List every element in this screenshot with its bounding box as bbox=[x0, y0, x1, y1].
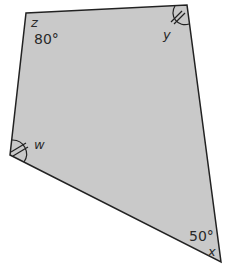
angle-value-z: 80° bbox=[34, 31, 59, 47]
vertex-label-w: w bbox=[34, 137, 45, 152]
quadrilateral-diagram: z 80° y w 50° x bbox=[0, 0, 229, 268]
vertex-label-z: z bbox=[30, 15, 39, 30]
vertex-label-y: y bbox=[162, 27, 171, 42]
angle-value-x: 50° bbox=[189, 228, 214, 244]
vertex-label-x: x bbox=[207, 244, 216, 259]
